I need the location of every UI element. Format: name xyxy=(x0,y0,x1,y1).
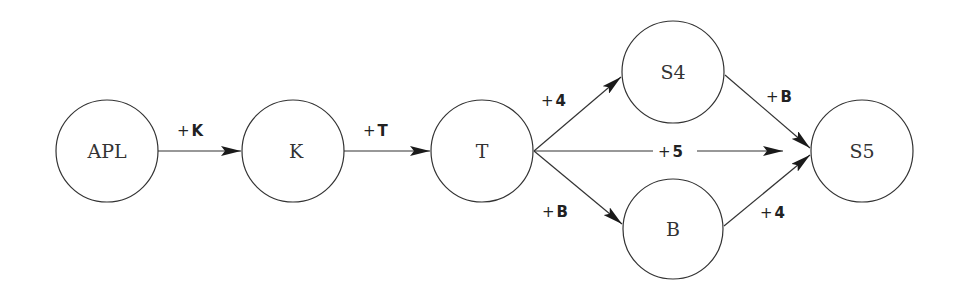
edge-t-s4 xyxy=(534,77,621,151)
node-label-apl: APL xyxy=(86,140,127,162)
node-label-b: B xyxy=(666,218,680,240)
node-b: B xyxy=(623,179,723,279)
edge-s4-s5 xyxy=(725,75,810,148)
flow-diagram: +K +T +4 +5 +B +B +4 APL K T S4 B S5 xyxy=(0,0,966,294)
edge-label-k-t: +T xyxy=(363,122,389,140)
edge-label-b-s5: +4 xyxy=(760,204,785,222)
node-s5: S5 xyxy=(811,100,913,202)
edge-label-t-s4: +4 xyxy=(541,92,566,110)
edge-label-t-b: +B xyxy=(542,203,568,221)
node-label-s5: S5 xyxy=(849,140,874,162)
edge-label-s4-s5: +B xyxy=(766,88,792,106)
node-apl: APL xyxy=(56,100,158,202)
node-k: K xyxy=(242,100,344,202)
node-t: T xyxy=(431,100,533,202)
node-s4: S4 xyxy=(622,21,724,123)
node-label-k: K xyxy=(289,140,304,162)
edge-label-apl-k: +K xyxy=(177,122,205,140)
edge-label-t-s5: +5 xyxy=(658,143,683,161)
node-label-s4: S4 xyxy=(660,61,685,83)
node-label-t: T xyxy=(476,140,489,162)
